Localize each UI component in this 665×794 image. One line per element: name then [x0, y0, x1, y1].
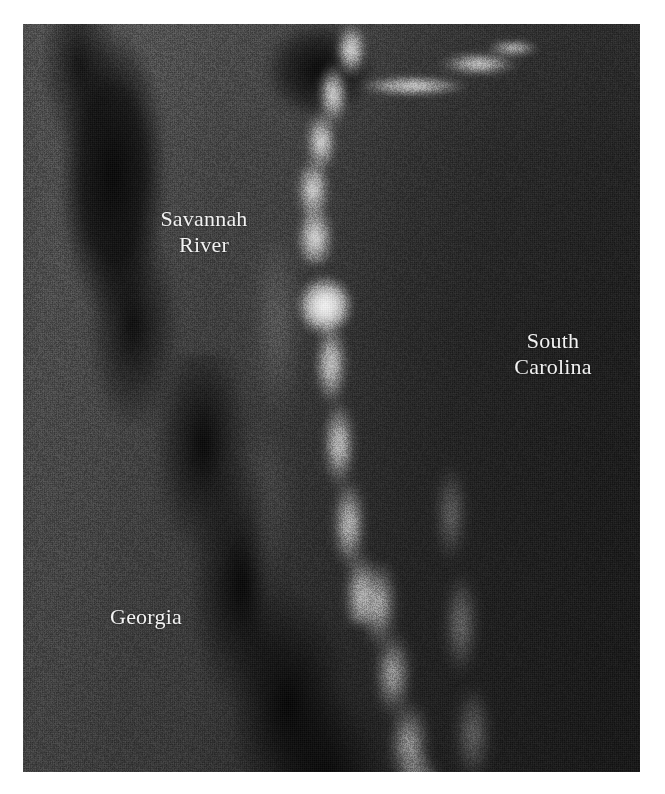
figure-root: Savannah River South Carolina Georgia: [0, 0, 665, 794]
satellite-image-plate: Savannah River South Carolina Georgia: [23, 24, 640, 772]
sensor-noise-overlay: [23, 24, 640, 772]
